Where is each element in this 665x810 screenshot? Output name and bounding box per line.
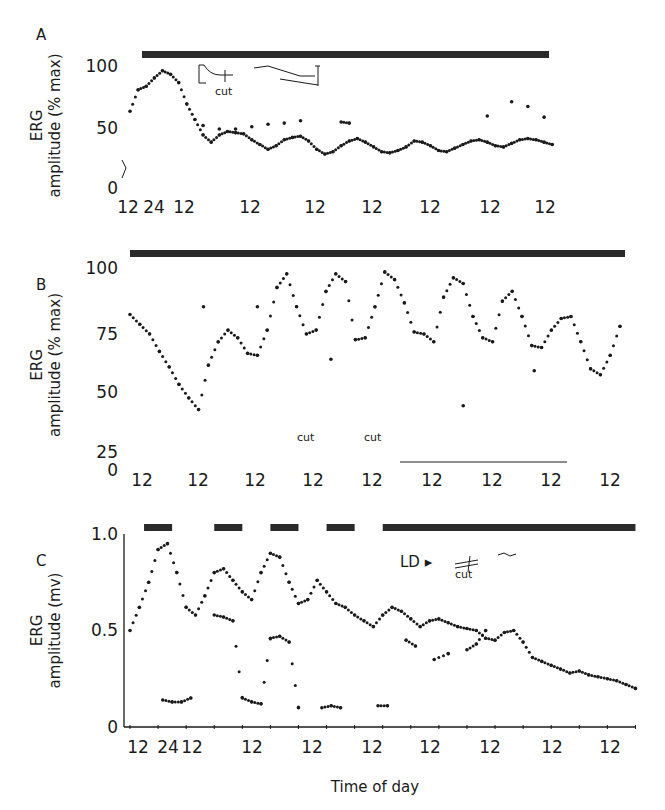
y-tick-label: 0: [107, 178, 118, 198]
x-tick-label: 12: [239, 197, 261, 217]
panel-c: CERGamplitude (mv)00.51.0122412121212121…: [28, 524, 637, 757]
y-tick-label: 0: [107, 460, 118, 480]
dark-period-bar: [270, 524, 298, 531]
ld-marker: LD ▸: [400, 553, 433, 571]
x-tick-label: 12: [599, 737, 621, 757]
panel-letter: B: [36, 276, 46, 294]
x-tick-label: 12: [241, 737, 263, 757]
x-tick-label: 12: [181, 737, 203, 757]
panel-letter: A: [36, 26, 47, 44]
x-tick-label: 12: [599, 470, 621, 490]
svg-text:amplitude (% max): amplitude (% max): [46, 293, 64, 437]
x-tick-label: 12: [304, 197, 326, 217]
x-tick-label: 12: [244, 470, 266, 490]
x-tick-label: 12: [540, 470, 562, 490]
x-axis-label: Time of day: [330, 778, 419, 796]
cut-label: cut: [455, 568, 473, 581]
erg-figure: AERGamplitude (% max)0501001224121212121…: [0, 0, 665, 810]
x-tick-label: 24: [157, 737, 179, 757]
y-tick-label: 0.5: [91, 620, 118, 640]
svg-text:ERG: ERG: [28, 110, 46, 142]
y-tick-label: 100: [86, 258, 118, 278]
dark-period-bar: [142, 51, 549, 58]
x-tick-label: 12: [481, 470, 503, 490]
panel-a: AERGamplitude (% max)0501001224121212121…: [28, 26, 556, 217]
x-tick-label: 12: [173, 197, 195, 217]
svg-text:ERG: ERG: [28, 615, 46, 647]
x-tick-label: 12: [117, 197, 139, 217]
data-series: [128, 542, 637, 690]
y-tick-label: 1.0: [91, 524, 118, 544]
y-tick-label: 75: [96, 324, 118, 344]
svg-text:amplitude (% max): amplitude (% max): [46, 54, 64, 198]
x-tick-label: 12: [419, 737, 441, 757]
y-axis-label: ERGamplitude (mv): [28, 573, 64, 689]
x-tick-label: 12: [131, 470, 153, 490]
panel-letter: C: [36, 552, 46, 570]
x-tick-label: 12: [419, 197, 441, 217]
x-tick-label: 12: [479, 197, 501, 217]
dark-period-bar: [130, 250, 625, 257]
dark-period-bar: [383, 524, 636, 531]
svg-text:ERG: ERG: [28, 349, 46, 381]
data-series: [128, 69, 554, 156]
x-tick-label: 24: [143, 197, 165, 217]
y-axis-label: ERGamplitude (% max): [28, 293, 64, 437]
cut-label: cut: [364, 431, 382, 444]
x-tick-label: 12: [479, 737, 501, 757]
x-tick-label: 12: [187, 470, 209, 490]
x-tick-label: 12: [361, 197, 383, 217]
y-axis-label: ERGamplitude (% max): [28, 54, 64, 198]
cut-label: cut: [297, 431, 315, 444]
data-series: [128, 270, 622, 411]
x-tick-label: 12: [534, 197, 556, 217]
x-tick-label: 12: [127, 737, 149, 757]
y-tick-label: 50: [96, 118, 118, 138]
data-series: [161, 613, 488, 709]
dark-period-bar: [214, 524, 242, 531]
x-tick-label: 12: [361, 470, 383, 490]
panel-b: BERGamplitude (% max)0255075100121212121…: [28, 250, 625, 490]
x-tick-label: 12: [541, 737, 563, 757]
x-tick-label: 12: [302, 470, 324, 490]
dark-period-bar: [144, 524, 172, 531]
y-tick-label: 25: [96, 442, 118, 462]
svg-text:cut: cut: [215, 85, 233, 98]
x-tick-label: 12: [301, 737, 323, 757]
svg-text:amplitude (mv): amplitude (mv): [46, 573, 64, 689]
y-tick-label: 50: [96, 382, 118, 402]
y-tick-label: 100: [86, 56, 118, 76]
data-series: [201, 100, 546, 131]
x-tick-label: 12: [361, 737, 383, 757]
dark-period-bar: [327, 524, 355, 531]
data-series: [202, 305, 536, 408]
x-tick-label: 12: [421, 470, 443, 490]
y-tick-label: 0: [107, 717, 118, 737]
